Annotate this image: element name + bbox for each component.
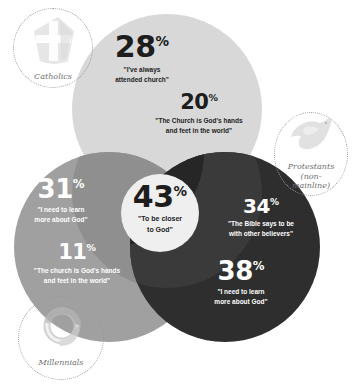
- legend-badge-millennials: Millennials: [18, 296, 104, 380]
- stat-millennials-1: 31% "I need to learn more about God": [10, 176, 112, 225]
- legend-badge-catholics: Catholics: [13, 8, 93, 88]
- cross-icon: [28, 15, 80, 67]
- stat-intersection-quote: "To be closer to God": [121, 214, 199, 235]
- stat-millennials-1-quote: "I need to learn more about God": [10, 205, 112, 225]
- stat-millennials-2-quote: "The church is God's hands and feet in t…: [18, 266, 136, 286]
- stat-millennials-1-value: 31%: [10, 176, 112, 202]
- stat-protestants-1: 34% "The Bible says to be with other bel…: [202, 196, 320, 239]
- stat-catholics-1-quote: "I've always attended church": [92, 65, 192, 85]
- legend-label-protestants: Protestants (non- mainline): [275, 162, 347, 190]
- legend-label-millennials: Millennials: [19, 358, 103, 367]
- stat-protestants-2: 38% "I need to learn more about God": [186, 258, 296, 307]
- stat-catholics-1: 28% "I've always attended church": [92, 32, 192, 85]
- stat-catholics-2: 20% "The Church is God's hands and feet …: [140, 92, 258, 136]
- stat-catholics-2-value: 20%: [140, 92, 258, 113]
- percent-symbol: %: [156, 33, 170, 49]
- stat-millennials-2: 11% "The church is God's hands and feet …: [18, 242, 136, 286]
- stat-intersection: 43% "To be closer to God": [121, 182, 199, 235]
- percent-symbol: %: [86, 242, 95, 253]
- percent-symbol: %: [253, 259, 265, 273]
- stat-intersection-value: 43%: [121, 182, 199, 212]
- stat-protestants-2-quote: "I need to learn more about God": [186, 287, 296, 307]
- venn-infographic: 28% "I've always attended church" 20% "T…: [0, 0, 353, 386]
- stat-millennials-2-value: 11%: [18, 242, 136, 263]
- percent-symbol: %: [270, 197, 279, 207]
- legend-badge-protestants: Protestants (non- mainline): [274, 112, 348, 196]
- ring-icon: [40, 304, 84, 348]
- percent-symbol: %: [73, 177, 85, 191]
- stat-protestants-2-value: 38%: [186, 258, 296, 284]
- stat-catholics-1-value: 28%: [92, 32, 192, 62]
- legend-label-catholics: Catholics: [14, 72, 92, 81]
- stat-protestants-1-value: 34%: [202, 196, 320, 216]
- percent-symbol: %: [208, 92, 217, 103]
- stat-catholics-2-quote: "The Church is God's hands and feet in t…: [140, 116, 258, 136]
- stat-protestants-1-quote: "The Bible says to be with other believe…: [202, 219, 320, 239]
- dove-icon: [287, 115, 337, 155]
- percent-symbol: %: [174, 183, 188, 199]
